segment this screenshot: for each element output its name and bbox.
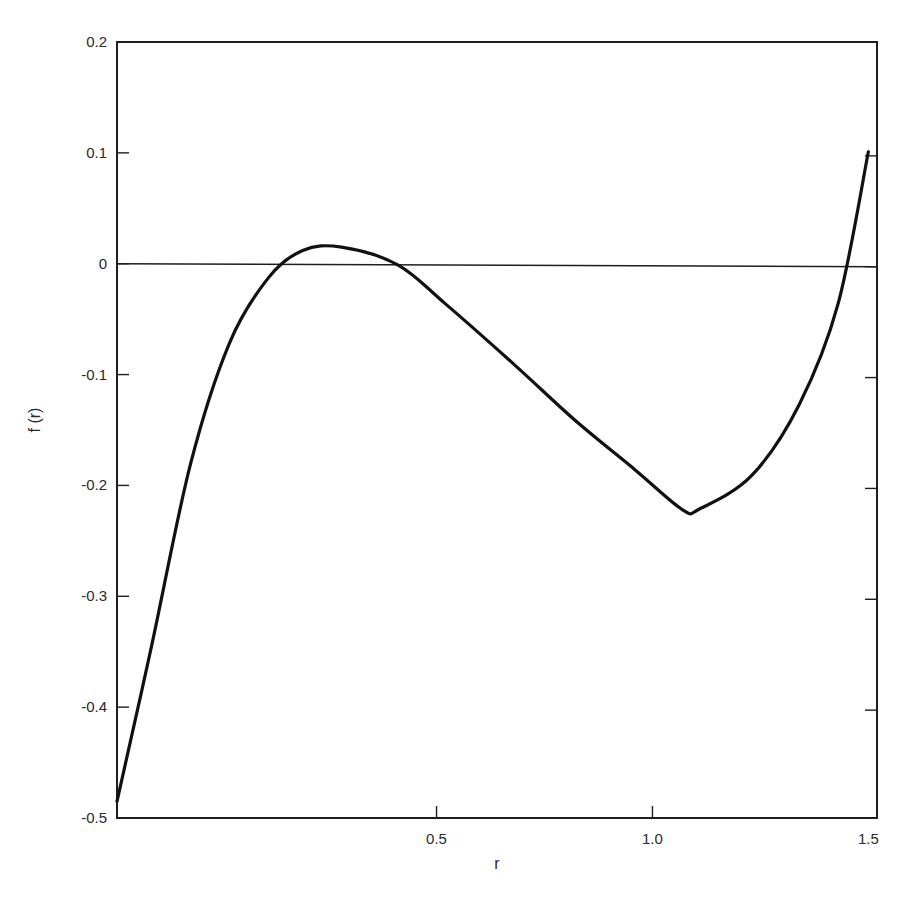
y-tick-label: 0.2 xyxy=(86,33,107,50)
x-axis-ticks: 0.51.01.5 xyxy=(426,806,879,847)
plot-border xyxy=(117,42,877,818)
y-tick-label: -0.3 xyxy=(81,587,107,604)
x-tick-label: 0.5 xyxy=(426,830,447,847)
plot-frame xyxy=(117,42,877,818)
chart: 0.20.10-0.1-0.2-0.3-0.4-0.5 0.51.01.5 r … xyxy=(0,0,922,900)
y-tick-label: -0.2 xyxy=(81,476,107,493)
y-tick-label: -0.5 xyxy=(81,809,107,826)
y-tick-label: -0.4 xyxy=(81,698,107,715)
zero-reference-line xyxy=(117,264,877,267)
x-tick-label: 1.5 xyxy=(858,830,879,847)
y-tick-label: 0 xyxy=(99,255,107,272)
y-tick-label: -0.1 xyxy=(81,366,107,383)
x-axis-label: r xyxy=(494,855,500,872)
series-line-f-r xyxy=(117,152,868,802)
y-tick-label: 0.1 xyxy=(86,144,107,161)
data-series xyxy=(117,152,868,802)
y-axis-label: f (r) xyxy=(26,408,43,433)
x-tick-label: 1.0 xyxy=(642,830,663,847)
zero-line xyxy=(117,264,877,267)
